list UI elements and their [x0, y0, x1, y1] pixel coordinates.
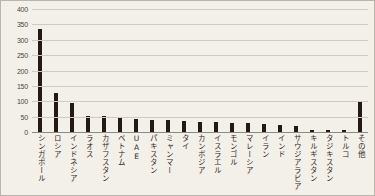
- bar: [182, 121, 186, 132]
- x-axis-tick-label: パキスタン: [148, 134, 156, 174]
- x-axis-label-slot: ラオス: [80, 134, 96, 195]
- gridline: [32, 55, 368, 56]
- gridline: [32, 71, 368, 72]
- x-axis-tick-label: タイ: [180, 134, 188, 150]
- x-axis-label-slot: インドネシア: [64, 134, 80, 195]
- gridline: [32, 40, 368, 41]
- x-axis-tick-label: イスラエル: [212, 134, 220, 174]
- y-axis-tick-label: 350: [17, 21, 28, 28]
- x-axis-label-slot: サウジアラビア: [288, 134, 304, 195]
- gridline: [32, 101, 368, 102]
- x-axis-tick-label: インド: [276, 134, 284, 158]
- x-axis-label-slot: マレーシア: [240, 134, 256, 195]
- bar: [134, 119, 138, 132]
- y-axis-tick-label: 200: [17, 67, 28, 74]
- x-axis-tick-label: モンゴル: [228, 134, 236, 166]
- x-axis-tick-label: ロシア: [52, 134, 60, 158]
- x-axis-tick-label: カンボジア: [196, 134, 204, 174]
- bar: [54, 93, 58, 132]
- x-axis-tick-label: その他: [356, 134, 364, 158]
- gridline: [32, 24, 368, 25]
- x-axis-label-slot: カザフスタン: [96, 134, 112, 195]
- x-axis-label-slot: キルギスタン: [304, 134, 320, 195]
- bar: [214, 122, 218, 132]
- x-axis-tick-label: タジキスタン: [324, 134, 332, 182]
- x-axis-label-slot: トルコ: [336, 134, 352, 195]
- x-axis-label-slot: カンボジア: [192, 134, 208, 195]
- y-axis-tick-label: 150: [17, 82, 28, 89]
- x-axis-tick-label: サウジアラビア: [292, 134, 300, 190]
- x-axis-tick-label: キルギスタン: [308, 134, 316, 182]
- bar: [246, 123, 250, 132]
- x-axis-tick-label: トルコ: [340, 134, 348, 158]
- x-axis-tick-label: ベトナム: [116, 134, 124, 166]
- x-axis-line: [32, 132, 368, 133]
- x-axis-label-slot: イスラエル: [208, 134, 224, 195]
- gridline: [32, 117, 368, 118]
- x-axis-label-slot: タイ: [176, 134, 192, 195]
- x-axis-label-slot: その他: [352, 134, 368, 195]
- x-axis-label-slot: イラン: [256, 134, 272, 195]
- y-axis-tick-label: 0: [24, 129, 28, 136]
- x-axis-label-slot: パキスタン: [144, 134, 160, 195]
- x-axis-tick-label: インドネシア: [68, 134, 76, 182]
- x-axis-tick-label: マレーシア: [244, 134, 252, 174]
- gridline: [32, 9, 368, 10]
- x-axis-label-slot: UAE: [128, 134, 144, 195]
- x-axis-label-slot: ミャンマー: [160, 134, 176, 195]
- x-axis-tick-label: ミャンマー: [164, 134, 172, 174]
- x-axis-label-slot: シンガポール: [32, 134, 48, 195]
- bar-chart: 050100150200250300350400 シンガポールロシアインドネシア…: [0, 0, 375, 196]
- bar: [262, 124, 266, 132]
- bar: [86, 116, 90, 132]
- x-axis-tick-label: ラオス: [84, 134, 92, 158]
- bar: [198, 122, 202, 132]
- y-axis-tick-label: 300: [17, 36, 28, 43]
- y-axis-tick-label: 250: [17, 52, 28, 59]
- x-axis-tick-label: シンガポール: [36, 134, 44, 182]
- x-axis-label-slot: タジキスタン: [320, 134, 336, 195]
- x-axis-label-slot: モンゴル: [224, 134, 240, 195]
- x-axis-label-slot: ベトナム: [112, 134, 128, 195]
- x-axis-tick-label: UAE: [132, 134, 140, 161]
- y-axis-tick-label: 50: [21, 113, 28, 120]
- x-axis-label-slot: インド: [272, 134, 288, 195]
- x-axis-labels: シンガポールロシアインドネシアラオスカザフスタンベトナムUAEパキスタンミャンマ…: [32, 134, 368, 195]
- y-axis-tick-label: 100: [17, 98, 28, 105]
- bar: [166, 120, 170, 132]
- x-axis-tick-label: イラン: [260, 134, 268, 158]
- x-axis-label-slot: ロシア: [48, 134, 64, 195]
- bar: [118, 118, 122, 132]
- bar: [150, 120, 154, 132]
- y-axis-tick-label: 400: [17, 6, 28, 13]
- bar: [102, 116, 106, 132]
- bar: [278, 125, 282, 132]
- gridline: [32, 86, 368, 87]
- x-axis-tick-label: カザフスタン: [100, 134, 108, 182]
- plot-area: 050100150200250300350400: [32, 9, 368, 132]
- bar: [230, 123, 234, 132]
